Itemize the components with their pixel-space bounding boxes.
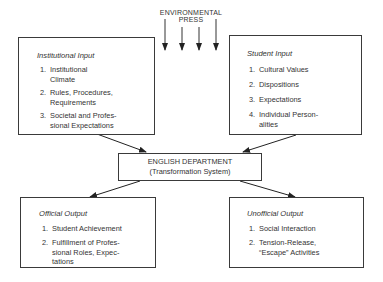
student-item-2: 2.Dispositions: [249, 80, 299, 90]
student-item-3: 3.Expectations: [249, 95, 301, 105]
unofficial-item-2: 2.Tension-Release,“Escape” Activities: [249, 238, 319, 257]
english-department-box: ENGLISH DEPARTMENT (Transformation Syste…: [118, 153, 262, 181]
arrow-department-to-official: [90, 181, 140, 197]
institutional-input-box: Institutional Input 1.InstitutionalClima…: [18, 37, 155, 135]
official-item-1: 1.Student Achievement: [42, 224, 122, 234]
environmental-press-label: ENVIRONMENTAL PRESS: [150, 9, 232, 23]
unofficial-output-title: Unofficial Output: [247, 209, 303, 218]
environmental-press-line1: ENVIRONMENTAL: [150, 9, 232, 16]
unofficial-output-box: Unofficial Output 1.Social Interaction 2…: [229, 197, 364, 268]
student-item-1: 1.Cultural Values: [249, 65, 309, 75]
institutional-item-3: 3.Societal and Profes-sional Expectation…: [40, 111, 117, 130]
institutional-item-1: 1.InstitutionalClimate: [40, 65, 87, 84]
environmental-press-line2: PRESS: [150, 16, 232, 23]
english-department-subtitle: (Transformation System): [119, 167, 261, 177]
student-item-4: 4.Individual Person-alities: [249, 110, 318, 129]
official-item-2: 2.Fulfillment of Profes-sional Roles, Ex…: [42, 238, 120, 267]
unofficial-item-1: 1.Social Interaction: [249, 224, 316, 234]
arrow-institutional-to-department: [97, 134, 146, 152]
student-input-title: Student Input: [247, 49, 292, 58]
english-department-title: ENGLISH DEPARTMENT: [119, 157, 261, 167]
institutional-input-title: Institutional Input: [37, 51, 94, 60]
institutional-item-2: 2.Rules, Procedures,Requirements: [40, 88, 113, 107]
arrow-student-to-department: [243, 135, 296, 152]
environmental-press-arrows: [165, 19, 216, 50]
arrow-department-to-unofficial: [240, 181, 295, 197]
english-department-label: ENGLISH DEPARTMENT (Transformation Syste…: [119, 157, 261, 177]
official-output-box: Official Output 1.Student Achievement 2.…: [20, 197, 156, 268]
official-output-title: Official Output: [39, 209, 87, 218]
student-input-box: Student Input 1.Cultural Values 2.Dispos…: [229, 35, 362, 135]
